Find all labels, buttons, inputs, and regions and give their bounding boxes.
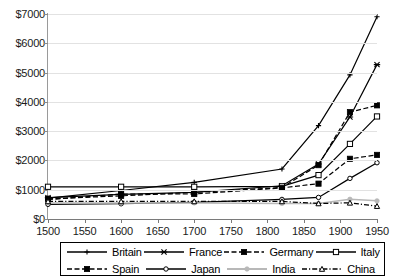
data-point-marker	[119, 184, 124, 189]
legend-label: Japan	[191, 263, 220, 275]
y-tick	[44, 131, 48, 132]
data-point-marker	[374, 152, 379, 157]
data-point-marker	[161, 249, 167, 254]
legend-label: Italy	[361, 246, 380, 258]
gridline	[48, 43, 377, 44]
data-point-marker	[347, 110, 352, 115]
legend-item-britain[interactable]: Britain	[65, 246, 142, 258]
series-italy	[45, 114, 379, 190]
gridline	[48, 131, 377, 132]
x-tick-label: 1700	[182, 225, 206, 237]
gridline	[48, 73, 377, 74]
data-point-marker	[242, 249, 247, 254]
legend-key-japan-icon	[144, 263, 188, 275]
y-tick	[44, 102, 48, 103]
data-point-marker	[374, 62, 380, 67]
data-point-marker	[192, 184, 197, 189]
legend-label: Spain	[112, 263, 139, 275]
x-tick-label: 1800	[255, 225, 279, 237]
data-point-marker	[320, 266, 325, 271]
chart-root: $0$1000$2000$3000$4000$5000$6000$7000 15…	[0, 0, 403, 278]
x-tick	[48, 219, 49, 223]
x-tick	[121, 219, 122, 223]
legend-key-india-icon	[225, 263, 269, 275]
legend-key-france-icon	[142, 246, 186, 258]
y-tick	[44, 190, 48, 191]
y-tick	[44, 43, 48, 44]
data-point-marker	[119, 191, 124, 196]
y-tick-label: $1000	[15, 184, 45, 196]
data-point-marker	[375, 199, 379, 203]
legend-label: Britain	[112, 246, 142, 258]
legend-row: BritainFranceGermanyItaly	[61, 243, 384, 260]
data-point-marker	[164, 266, 168, 270]
legend-key-china-icon	[300, 263, 344, 275]
x-tick	[158, 219, 159, 223]
x-tick-label: 1500	[36, 225, 60, 237]
y-tick-label: $2000	[15, 154, 45, 166]
series-line	[48, 116, 377, 186]
x-tick-label: 1650	[146, 225, 170, 237]
y-tick	[44, 14, 48, 15]
legend-key-spain-icon	[65, 263, 109, 275]
x-tick	[231, 219, 232, 223]
data-point-marker	[119, 199, 124, 204]
series-japan	[46, 161, 379, 207]
x-tick	[340, 219, 341, 223]
y-tick	[44, 73, 48, 74]
y-tick-label: $4000	[15, 96, 45, 108]
legend-item-india[interactable]: India	[225, 263, 300, 275]
legend-item-italy[interactable]: Italy	[314, 246, 380, 258]
data-point-marker	[316, 173, 321, 178]
legend-item-france[interactable]: France	[142, 246, 222, 258]
legend-row: SpainJapanIndiaChina	[61, 260, 384, 277]
series-line	[48, 163, 377, 205]
x-tick-label: 1900	[329, 225, 353, 237]
legend-item-china[interactable]: China	[300, 263, 380, 275]
legend-label: France	[189, 246, 222, 258]
x-tick-label: 1950	[365, 225, 389, 237]
y-tick-label: $5000	[15, 67, 45, 79]
legend-key-germany-icon	[222, 246, 266, 258]
x-tick-label: 1600	[109, 225, 133, 237]
legend-label: China	[347, 263, 375, 275]
legend-item-spain[interactable]: Spain	[65, 263, 144, 275]
data-point-marker	[333, 249, 338, 254]
data-point-marker	[84, 266, 89, 271]
x-tick-label: 1550	[73, 225, 97, 237]
x-tick	[304, 219, 305, 223]
gridline	[48, 160, 377, 161]
data-point-marker	[316, 163, 321, 168]
y-tick-label: $6000	[15, 37, 45, 49]
plot-area	[48, 14, 377, 219]
x-tick-label: 1750	[219, 225, 243, 237]
gridline	[48, 102, 377, 103]
data-point-marker	[45, 184, 50, 189]
x-tick	[85, 219, 86, 223]
x-tick	[267, 219, 268, 223]
y-tick	[44, 160, 48, 161]
data-point-marker	[316, 195, 320, 199]
data-point-marker	[316, 181, 321, 186]
x-tick	[194, 219, 195, 223]
data-point-marker	[374, 204, 379, 209]
legend-label: India	[272, 263, 295, 275]
data-point-marker	[374, 103, 379, 108]
data-point-marker	[84, 249, 89, 254]
legend-label: Germany	[269, 246, 313, 258]
series-britain	[45, 14, 379, 201]
data-point-marker	[347, 141, 352, 146]
legend-item-germany[interactable]: Germany	[222, 246, 313, 258]
y-tick-label: $3000	[15, 125, 45, 137]
y-tick-label: $7000	[15, 8, 45, 20]
chart-title	[0, 0, 403, 5]
legend-item-japan[interactable]: Japan	[144, 263, 225, 275]
gridline	[48, 14, 377, 15]
x-tick	[377, 219, 378, 223]
series-line	[48, 105, 377, 199]
data-point-marker	[192, 191, 197, 196]
legend-key-britain-icon	[65, 246, 109, 258]
gridline	[48, 190, 377, 191]
data-point-marker	[348, 176, 352, 180]
series-layer	[48, 14, 377, 219]
